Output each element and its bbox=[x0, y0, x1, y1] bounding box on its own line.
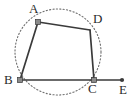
segment-DC bbox=[90, 30, 94, 80]
geometry-figure: A B C D E bbox=[0, 0, 134, 112]
vertex-label-B: B bbox=[4, 73, 13, 86]
vertex-label-A: A bbox=[29, 2, 38, 15]
vertex-marker-A bbox=[36, 20, 41, 25]
segment-AD bbox=[38, 22, 90, 30]
vertex-label-D: D bbox=[93, 12, 102, 25]
vertex-marker-B bbox=[18, 78, 23, 83]
diagram-canvas bbox=[0, 0, 134, 112]
segment-AB bbox=[20, 22, 38, 80]
vertex-label-C: C bbox=[88, 82, 97, 95]
vertex-label-E: E bbox=[119, 83, 127, 96]
